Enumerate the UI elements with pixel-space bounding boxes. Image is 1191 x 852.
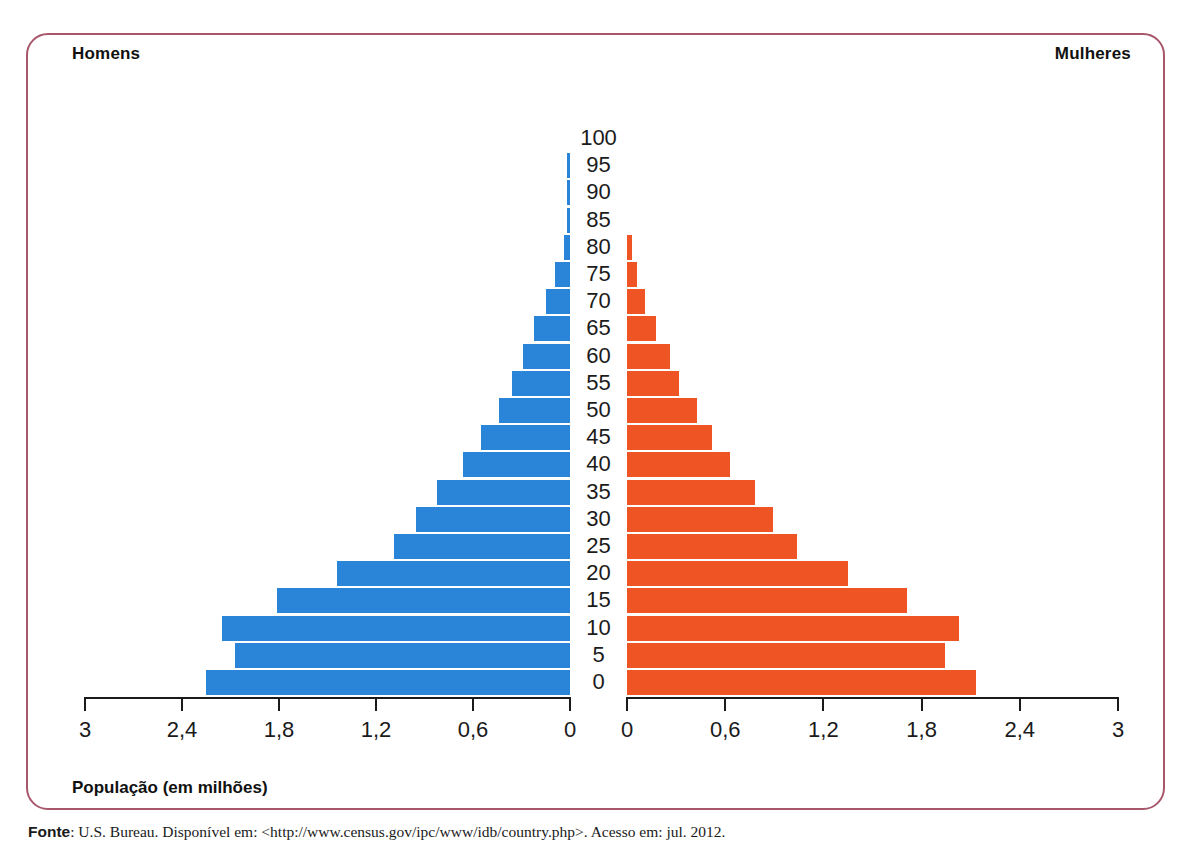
bar-homens-80 [564,235,570,260]
bar-homens-45 [481,425,570,450]
bar-homens-0 [206,670,570,695]
bar-homens-55 [512,371,570,396]
bar-homens-75 [555,262,570,287]
legend-label-homens: Homens [72,44,140,64]
bar-mulheres-40 [627,452,730,477]
bar-homens-35 [437,480,570,505]
bar-homens-25 [394,534,570,559]
legend-label-mulheres: Mulheres [1055,44,1131,64]
bar-mulheres-60 [627,344,670,369]
bar-mulheres-25 [627,534,797,559]
bar-homens-90 [567,180,570,205]
bar-mulheres-45 [627,425,712,450]
bar-mulheres-15 [627,588,907,613]
source-text: : U.S. Bureau. Disponível em: <http://ww… [70,823,725,840]
bar-mulheres-20 [627,561,848,586]
chart-frame [26,33,1165,810]
bar-mulheres-0 [627,670,976,695]
bar-mulheres-5 [627,643,945,668]
bar-mulheres-65 [627,316,656,341]
bar-homens-20 [337,561,570,586]
bar-mulheres-35 [627,480,755,505]
bar-mulheres-30 [627,507,773,532]
bar-homens-15 [277,588,570,613]
bar-homens-60 [523,344,570,369]
bar-mulheres-10 [627,616,959,641]
figure-container: Homens Mulheres 051015202530354045505560… [0,0,1191,852]
bar-homens-10 [222,616,570,641]
bar-mulheres-80 [627,235,632,260]
bar-homens-30 [416,507,570,532]
bar-homens-50 [499,398,570,423]
bar-homens-5 [235,643,570,668]
bar-homens-70 [546,289,570,314]
bar-homens-85 [567,208,570,233]
source-note: Fonte: U.S. Bureau. Disponível em: <http… [28,823,725,841]
bar-mulheres-50 [627,398,697,423]
source-prefix: Fonte [28,823,70,840]
bar-mulheres-70 [627,289,645,314]
bar-mulheres-55 [627,371,679,396]
bar-homens-65 [534,316,570,341]
axis-title: População (em milhões) [72,778,268,798]
bar-homens-40 [463,452,570,477]
bar-mulheres-75 [627,262,637,287]
bar-homens-95 [567,153,570,178]
